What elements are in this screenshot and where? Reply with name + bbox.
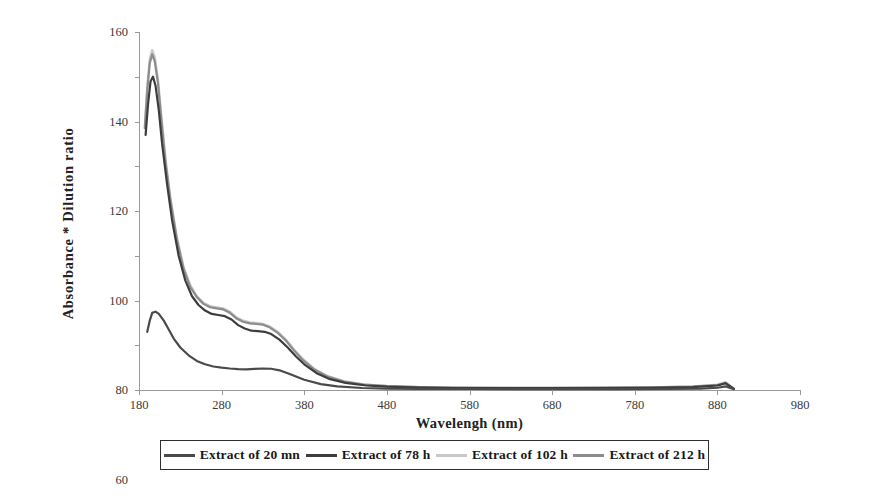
legend-item-label: Extract of 20 mn <box>200 447 300 463</box>
x-axis-tick <box>470 390 471 395</box>
series-line <box>145 50 734 389</box>
y-axis-tick: 80 <box>135 211 139 212</box>
y-axis-title: Absorbance * Dilution ratio <box>60 94 77 354</box>
legend-line-swatch <box>164 454 195 457</box>
y-axis-tick: 160 <box>135 32 139 33</box>
series-lines <box>139 32 800 390</box>
legend-item-label: Extract of 78 h <box>342 447 431 463</box>
x-axis-tick <box>304 390 305 395</box>
legend-item[interactable]: Extract of 78 h <box>306 447 431 463</box>
x-axis-tick <box>635 390 636 395</box>
x-axis-tick-label: 180 <box>130 398 149 413</box>
x-axis-tick <box>222 390 223 395</box>
x-axis-tick <box>387 390 388 395</box>
legend-item[interactable]: Extract of 102 h <box>436 447 568 463</box>
x-axis-title: Wavelengh (nm) <box>139 415 800 432</box>
y-axis-tick-label: 160 <box>109 25 128 40</box>
x-axis-tick-label: 880 <box>708 398 727 413</box>
y-axis-tick-label: 80 <box>116 383 129 398</box>
x-axis-tick-label: 580 <box>460 398 479 413</box>
x-axis-tick <box>139 390 140 395</box>
x-axis-tick <box>717 390 718 395</box>
series-line <box>146 77 734 389</box>
legend-item-label: Extract of 102 h <box>472 447 568 463</box>
y-axis-tick-label: 140 <box>109 114 128 129</box>
legend-line-swatch <box>436 454 467 457</box>
legend-item[interactable]: Extract of 20 mn <box>164 447 300 463</box>
plot-area: 0204060801001201401601802803804805806807… <box>139 32 800 390</box>
x-axis-tick-label: 780 <box>625 398 644 413</box>
spectrum-figure: Absorbance * Dilution ratio 020406080100… <box>0 0 869 498</box>
x-axis-tick-label: 680 <box>543 398 562 413</box>
y-axis-tick: 120 <box>135 122 139 123</box>
x-axis-tick-label: 380 <box>295 398 314 413</box>
series-line <box>145 54 734 388</box>
legend-line-swatch <box>573 454 604 457</box>
y-axis-tick: 60 <box>135 256 139 257</box>
y-axis-tick: 20 <box>135 345 139 346</box>
y-axis-tick-label: 120 <box>109 204 128 219</box>
legend-line-swatch <box>306 454 337 457</box>
y-axis-tick: 140 <box>135 77 139 78</box>
y-axis-tick: 100 <box>135 166 139 167</box>
y-axis-tick-label: 60 <box>116 472 129 487</box>
y-axis-tick-label: 100 <box>109 293 128 308</box>
chart-legend: Extract of 20 mnExtract of 78 hExtract o… <box>160 440 709 470</box>
x-axis-tick-label: 480 <box>378 398 397 413</box>
x-axis-tick-label: 980 <box>791 398 810 413</box>
y-axis-tick: 40 <box>135 301 139 302</box>
x-axis-tick-label: 280 <box>212 398 231 413</box>
legend-item-label: Extract of 212 h <box>609 447 705 463</box>
legend-item[interactable]: Extract of 212 h <box>573 447 705 463</box>
x-axis-tick <box>552 390 553 395</box>
x-axis-tick <box>800 390 801 395</box>
